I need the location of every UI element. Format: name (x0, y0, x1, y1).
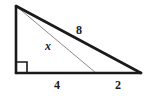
cevian-line (16, 6, 96, 73)
right-angle-marker-icon (16, 62, 27, 73)
hypotenuse-length-label: 8 (76, 24, 82, 36)
geometry-figure: 8 x 4 2 (0, 0, 149, 96)
base-left-segment-label: 4 (54, 79, 60, 91)
base-right-segment-label: 2 (115, 79, 121, 91)
triangle-drawing (0, 0, 149, 96)
cevian-length-label: x (45, 40, 51, 52)
hypotenuse-line (16, 6, 141, 73)
